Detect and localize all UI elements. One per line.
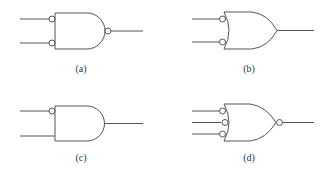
- gate-b-caption: (b): [243, 63, 255, 75]
- gate-c: (c): [20, 106, 143, 164]
- gate-a: (a): [20, 13, 143, 75]
- logic-gates-diagram: (a) (b) (c) (d): [0, 0, 334, 174]
- gate-c-input-1-inversion-bubble-icon: [49, 108, 55, 114]
- gate-a-and-body-icon: [55, 13, 105, 49]
- gate-a-output-inversion-bubble-icon: [105, 28, 111, 34]
- gate-b: (b): [192, 12, 314, 75]
- gate-d-input-3-inversion-bubble-icon: [220, 131, 226, 137]
- gate-d-input-1-inversion-bubble-icon: [220, 108, 226, 114]
- gate-a-input-1-inversion-bubble-icon: [49, 16, 55, 22]
- gate-b-input-2-inversion-bubble-icon: [220, 39, 226, 45]
- gate-d-or-body-icon: [224, 104, 276, 141]
- gate-d-caption: (d): [243, 152, 255, 164]
- gate-b-or-body-icon: [224, 12, 277, 49]
- gate-d-output-inversion-bubble-icon: [277, 120, 283, 126]
- gate-a-caption: (a): [75, 63, 86, 75]
- gate-c-and-body-icon: [55, 106, 105, 141]
- gate-b-input-1-inversion-bubble-icon: [220, 16, 226, 22]
- gate-a-input-2-inversion-bubble-icon: [49, 40, 55, 46]
- gate-d: (d): [192, 104, 314, 164]
- gate-c-caption: (c): [75, 152, 86, 164]
- gate-d-input-2-inversion-bubble-icon: [222, 120, 228, 126]
